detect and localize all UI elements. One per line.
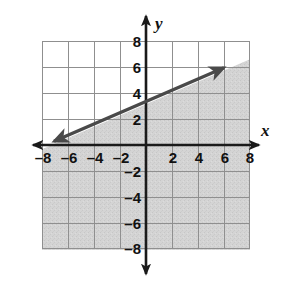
x-tick-label-2: 2: [165, 150, 181, 165]
x-tick-label--6: –6: [60, 150, 78, 165]
x-tick-label-6: 6: [217, 150, 233, 165]
y-tick-label--8: –8: [120, 241, 141, 256]
graph-canvas: [0, 0, 283, 285]
x-tick-label--4: –4: [86, 150, 104, 165]
y-tick-label-6: 6: [127, 60, 141, 75]
x-tick-label--8: –8: [34, 150, 52, 165]
x-tick-label-8: 8: [242, 150, 258, 165]
x-tick-label-4: 4: [191, 150, 207, 165]
y-tick-label-2: 2: [127, 112, 141, 127]
y-tick-label--4: –4: [120, 190, 141, 205]
y-tick-label-8: 8: [127, 34, 141, 49]
x-axis-label: x: [261, 122, 270, 139]
y-axis-label: y: [155, 15, 163, 32]
y-tick-label--6: –6: [120, 216, 141, 231]
y-tick-label--2: –2: [120, 164, 141, 179]
y-tick-label-4: 4: [127, 86, 141, 101]
coordinate-plane-figure: –8 –6 –4 –2 2 4 6 8 8 6 4 2 –2 –4 –6 –8 …: [0, 0, 283, 285]
